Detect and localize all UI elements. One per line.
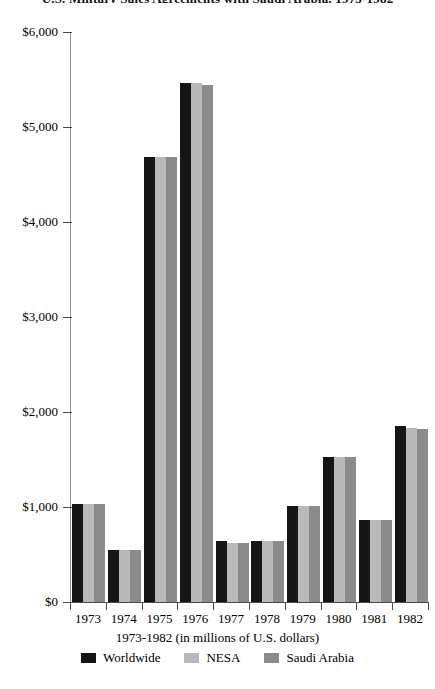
x-axis-tick — [142, 602, 143, 610]
bar-nesa — [334, 457, 345, 602]
bar-group — [323, 32, 356, 602]
bar-chart: U.S. Military Sales Agreements with Saud… — [0, 0, 435, 689]
y-axis-tick-label: $6,000 — [22, 25, 58, 38]
legend-entry-worldwide: Worldwide — [81, 651, 160, 665]
bar-group — [287, 32, 320, 602]
bar-worldwide — [395, 426, 406, 602]
y-axis-tick-label: $5,000 — [22, 120, 58, 133]
bar-group — [216, 32, 249, 602]
y-axis-tick-label: $1,000 — [22, 500, 58, 513]
bar-group — [251, 32, 284, 602]
legend-entry-saudi: Saudi Arabia — [264, 651, 354, 665]
bar-group — [359, 32, 392, 602]
bar-nesa — [83, 504, 94, 602]
x-axis-tick — [321, 602, 322, 610]
x-axis-tick-label: 1982 — [386, 612, 434, 626]
bar-saudi — [130, 550, 141, 602]
bar-saudi — [381, 520, 392, 602]
y-axis-tick-label: $2,000 — [22, 405, 58, 418]
bar-group — [180, 32, 213, 602]
legend-entry-nesa: NESA — [184, 651, 240, 665]
bar-worldwide — [287, 506, 298, 602]
bar-saudi — [166, 157, 177, 602]
bar-saudi — [94, 504, 105, 602]
x-axis-tick — [428, 602, 429, 610]
bar-nesa — [227, 543, 238, 602]
bar-saudi — [417, 429, 428, 602]
legend-swatch-icon — [264, 653, 279, 663]
chart-title: U.S. Military Sales Agreements with Saud… — [0, 0, 435, 3]
bar-nesa — [262, 541, 273, 602]
bar-worldwide — [144, 157, 155, 602]
bar-saudi — [273, 541, 284, 602]
x-axis-tick — [213, 602, 214, 610]
x-axis-tick — [356, 602, 357, 610]
bar-worldwide — [323, 457, 334, 602]
bar-worldwide — [72, 504, 83, 602]
x-axis-tick — [177, 602, 178, 610]
bar-worldwide — [251, 541, 262, 602]
legend-label: Saudi Arabia — [286, 651, 354, 665]
bar-nesa — [191, 83, 202, 602]
x-axis-tick — [285, 602, 286, 610]
x-axis-label: 1973-1982 (in millions of U.S. dollars) — [0, 630, 435, 645]
legend-swatch-icon — [81, 653, 96, 663]
bar-group — [72, 32, 105, 602]
bar-worldwide — [180, 83, 191, 602]
bar-nesa — [370, 520, 381, 602]
bar-nesa — [298, 506, 309, 602]
bar-saudi — [345, 457, 356, 602]
bar-saudi — [309, 506, 320, 602]
bar-group — [108, 32, 141, 602]
x-axis-tick — [392, 602, 393, 610]
bar-worldwide — [108, 550, 119, 602]
y-axis-tick-label: $4,000 — [22, 215, 58, 228]
x-axis-tick — [249, 602, 250, 610]
bar-nesa — [406, 428, 417, 602]
legend-label: NESA — [206, 651, 240, 665]
bar-saudi — [202, 85, 213, 602]
x-axis-tick — [70, 602, 71, 610]
legend-swatch-icon — [184, 653, 199, 663]
bar-group — [395, 32, 428, 602]
bar-group — [144, 32, 177, 602]
bar-worldwide — [216, 541, 227, 602]
x-axis-tick — [106, 602, 107, 610]
bar-nesa — [119, 550, 130, 602]
y-axis-tick-label: $3,000 — [22, 310, 58, 323]
bar-nesa — [155, 157, 166, 602]
chart-legend: WorldwideNESASaudi Arabia — [0, 651, 435, 665]
bar-saudi — [238, 543, 249, 602]
plot-area — [70, 32, 428, 602]
y-axis-tick-label: $0 — [45, 595, 58, 608]
bar-worldwide — [359, 520, 370, 602]
legend-label: Worldwide — [103, 651, 160, 665]
